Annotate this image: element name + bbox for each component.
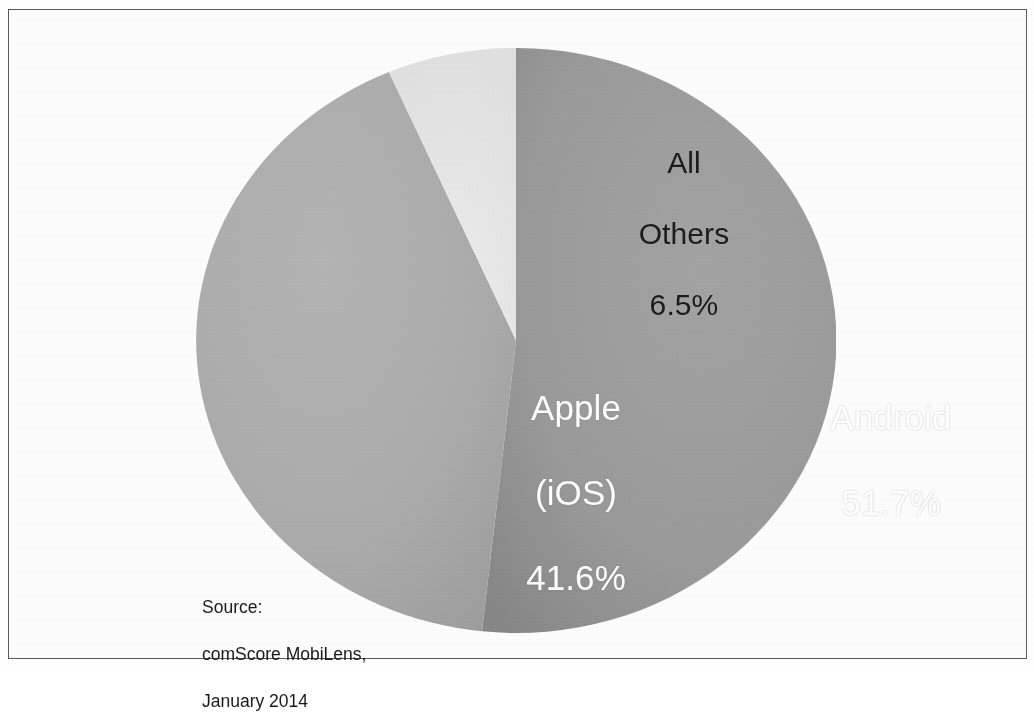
pie-label-android-name: Android: [771, 397, 1011, 440]
pie-label-all-others-name-line2: Others: [594, 216, 774, 251]
source-note-line3: January 2014: [202, 691, 308, 711]
source-note: Source: comScore MobiLens, January 2014: [202, 573, 366, 714]
pie-chart: Android 51.7% Apple (iOS) 41.6% All Othe…: [196, 48, 836, 633]
pie-label-apple-value: 41.6%: [461, 557, 691, 600]
source-note-line1: Source:: [202, 597, 262, 617]
pie-label-android: Android 51.7%: [771, 354, 1011, 567]
pie-label-apple-name-line2: (iOS): [461, 472, 691, 515]
pie-label-apple-name-line1: Apple: [461, 387, 691, 430]
pie-label-apple: Apple (iOS) 41.6%: [461, 344, 691, 643]
pie-label-all-others-name-line1: All: [594, 145, 774, 180]
pie-label-all-others: All Others 6.5%: [594, 110, 774, 358]
source-note-line2: comScore MobiLens,: [202, 644, 366, 664]
pie-label-all-others-value: 6.5%: [594, 287, 774, 322]
pie-label-android-value: 51.7%: [771, 482, 1011, 525]
